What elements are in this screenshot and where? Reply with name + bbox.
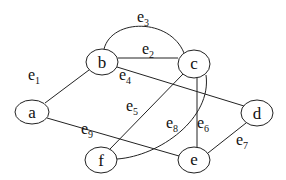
graph-diagram: a b c d e f e1 e2 e3 e4 e5 e6 e7 e8 e xyxy=(0,0,286,180)
node-b: b xyxy=(86,49,118,75)
edge-label-e8: e8 xyxy=(166,114,178,134)
edge-e8 xyxy=(117,75,206,159)
edge-label-e2: e2 xyxy=(142,40,154,60)
node-c-label: c xyxy=(190,54,198,73)
edge-labels: e1 e2 e3 e4 e5 e6 e7 e8 e9 xyxy=(28,8,248,151)
node-f-label: f xyxy=(98,151,104,170)
node-e: e xyxy=(178,147,210,173)
edge-label-e3: e3 xyxy=(137,8,149,28)
edge-e1 xyxy=(45,70,89,103)
node-a-label: a xyxy=(28,103,36,122)
edge-label-e9: e9 xyxy=(81,120,93,140)
nodes: a b c d e f xyxy=(15,49,273,173)
edge-label-e6: e6 xyxy=(197,114,209,134)
edge-e4 xyxy=(117,67,244,106)
node-d: d xyxy=(241,100,273,126)
edge-label-e1: e1 xyxy=(28,66,40,86)
node-a: a xyxy=(15,100,49,124)
node-b-label: b xyxy=(98,53,107,72)
edge-e9 xyxy=(47,118,179,156)
node-e-label: e xyxy=(190,150,198,169)
edge-label-e4: e4 xyxy=(119,66,131,86)
edge-label-e5: e5 xyxy=(126,97,138,117)
node-d-label: d xyxy=(253,104,262,123)
edge-label-e7: e7 xyxy=(236,131,248,151)
node-c: c xyxy=(178,50,210,78)
node-f: f xyxy=(85,147,117,173)
